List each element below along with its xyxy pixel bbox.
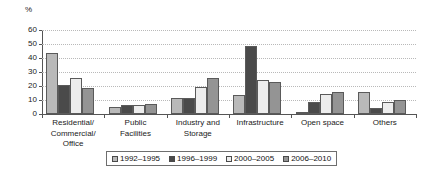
bar-group bbox=[171, 30, 219, 114]
bar[interactable] bbox=[171, 98, 183, 114]
legend-swatch-icon bbox=[112, 156, 118, 162]
bar[interactable] bbox=[332, 92, 344, 114]
y-tick-label-60: 60 bbox=[21, 26, 37, 34]
bar[interactable] bbox=[320, 94, 332, 114]
bar[interactable] bbox=[296, 112, 308, 114]
y-tick-label-10: 10 bbox=[21, 96, 37, 104]
bar-group bbox=[46, 30, 94, 114]
x-axis-label: Infrastructure bbox=[229, 118, 291, 129]
x-axis-label-line: Open space bbox=[291, 118, 353, 129]
legend-swatch-icon bbox=[226, 156, 232, 162]
legend-swatch-icon bbox=[169, 156, 175, 162]
y-tick-label-30: 30 bbox=[21, 68, 37, 76]
legend-item[interactable]: 1996–1999 bbox=[169, 154, 217, 163]
x-axis-tick bbox=[416, 114, 417, 118]
x-axis-label-line: Public bbox=[104, 118, 166, 129]
y-tick-label-20: 20 bbox=[21, 82, 37, 90]
y-tick-mark-30 bbox=[39, 72, 42, 73]
chart-legend: 1992–19951996–19992000–20052006–2010 bbox=[106, 151, 337, 166]
y-tick-mark-20 bbox=[39, 86, 42, 87]
bar[interactable] bbox=[195, 87, 207, 114]
bar-group-bars bbox=[171, 30, 219, 114]
legend-items: 1992–19951996–19992000–20052006–2010 bbox=[112, 154, 331, 163]
legend-item[interactable]: 2000–2005 bbox=[226, 154, 274, 163]
legend-item-label: 1996–1999 bbox=[177, 154, 217, 163]
bar-group-bars bbox=[358, 30, 406, 114]
bar[interactable] bbox=[46, 53, 58, 114]
legend-swatch-icon bbox=[283, 156, 289, 162]
bar[interactable] bbox=[370, 108, 382, 114]
x-axis-label: PublicFacilities bbox=[104, 118, 166, 139]
legend-item[interactable]: 2006–2010 bbox=[283, 154, 331, 163]
bar[interactable] bbox=[245, 46, 257, 114]
bar-group bbox=[109, 30, 157, 114]
x-axis-label-line: Facilities bbox=[104, 129, 166, 140]
legend-item-label: 1992–1995 bbox=[120, 154, 160, 163]
bar-group bbox=[358, 30, 406, 114]
x-axis-label-line: Others bbox=[354, 118, 416, 129]
bar-group bbox=[233, 30, 281, 114]
bar[interactable] bbox=[133, 105, 145, 114]
bar[interactable] bbox=[269, 82, 281, 114]
x-axis-label-line: Industry and bbox=[167, 118, 229, 129]
x-axis-label: Residential/Commercial/Office bbox=[42, 118, 104, 150]
x-axis-label-line: Office bbox=[42, 139, 104, 150]
y-tick-mark-50 bbox=[39, 44, 42, 45]
y-tick-label-50: 50 bbox=[21, 40, 37, 48]
y-tick-label-0: 0 bbox=[21, 110, 37, 118]
legend-item-label: 2006–2010 bbox=[291, 154, 331, 163]
x-axis-label-line: Commercial/ bbox=[42, 129, 104, 140]
bar[interactable] bbox=[358, 92, 370, 114]
bar[interactable] bbox=[82, 88, 94, 114]
bar-group-bars bbox=[296, 30, 344, 114]
x-axis-label-line: Storage bbox=[167, 129, 229, 140]
bar[interactable] bbox=[58, 85, 70, 114]
bar[interactable] bbox=[394, 100, 406, 114]
bar[interactable] bbox=[145, 104, 157, 114]
y-tick-mark-10 bbox=[39, 100, 42, 101]
bar[interactable] bbox=[257, 80, 269, 114]
x-axis-label-line: Infrastructure bbox=[229, 118, 291, 129]
y-tick-mark-40 bbox=[39, 58, 42, 59]
bar[interactable] bbox=[233, 95, 245, 114]
bar[interactable] bbox=[109, 107, 121, 114]
x-axis-label: Industry andStorage bbox=[167, 118, 229, 139]
bar[interactable] bbox=[70, 78, 82, 114]
y-tick-label-40: 40 bbox=[21, 54, 37, 62]
bar[interactable] bbox=[207, 78, 219, 114]
plot-area: 0102030405060 bbox=[42, 30, 416, 114]
bar[interactable] bbox=[121, 105, 133, 114]
bar[interactable] bbox=[382, 102, 394, 114]
bar-group-bars bbox=[46, 30, 94, 114]
legend-item-label: 2000–2005 bbox=[234, 154, 274, 163]
x-axis-label-line: Residential/ bbox=[42, 118, 104, 129]
bar[interactable] bbox=[183, 98, 195, 114]
bar[interactable] bbox=[308, 102, 320, 114]
bar-group-bars bbox=[109, 30, 157, 114]
legend-item[interactable]: 1992–1995 bbox=[112, 154, 160, 163]
bar-group bbox=[296, 30, 344, 114]
y-axis-unit-label: % bbox=[25, 5, 32, 14]
bar-group-bars bbox=[233, 30, 281, 114]
x-axis-label: Others bbox=[354, 118, 416, 129]
y-tick-mark-60 bbox=[39, 30, 42, 31]
bar-chart: % 0102030405060 Residential/Commercial/O… bbox=[0, 0, 441, 179]
x-axis-label: Open space bbox=[291, 118, 353, 129]
